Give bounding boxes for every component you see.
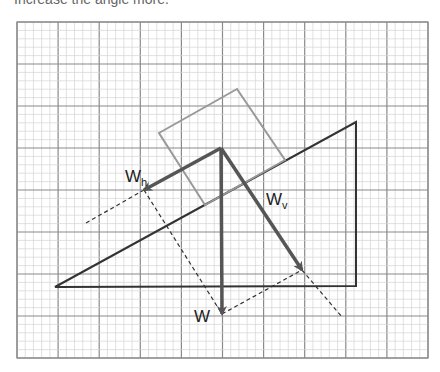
vector-w-arrow [221,148,222,314]
vector-wv-label: Wv [266,190,288,211]
inclined-plane-diagram: WWhWv [0,0,440,372]
dashed-construction-line [144,190,222,314]
dashed-construction-line [302,270,342,317]
vector-wh-arrow [144,148,221,190]
vector-wh-label: Wh [125,167,147,188]
vector-wv-arrow [221,148,302,270]
vector-w-label: W [194,307,210,326]
